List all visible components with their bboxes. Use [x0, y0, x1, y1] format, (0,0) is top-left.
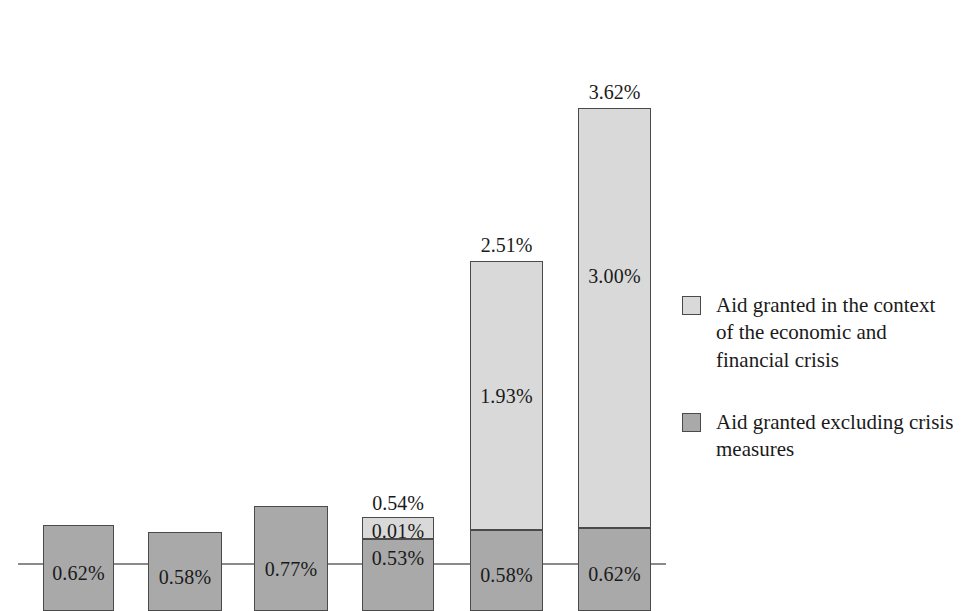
legend-swatch-crisis-context: [682, 296, 701, 315]
legend-label-excluding-crisis: Aid granted excluding crisis measures: [716, 409, 954, 464]
bar-group-2004: 0.62% 2004: [43, 48, 114, 611]
bar-group-2006: 0.77% 2006: [254, 48, 328, 611]
bar-label-excluding-crisis: 0.53%: [362, 547, 434, 570]
legend-label-crisis-context: Aid granted in the context of the econom…: [716, 292, 954, 374]
bar-label-excluding-crisis: 0.62%: [43, 562, 114, 585]
bar-total-label: 0.54%: [362, 492, 434, 515]
legend-swatch-excluding-crisis: [682, 413, 701, 432]
x-axis-line: [18, 563, 666, 565]
bar-label-excluding-crisis: 0.77%: [254, 558, 328, 581]
bar-group-2009: 0.62% 3.00% 3.62% 2009: [578, 48, 651, 611]
plot-area: 0.62% 2004 0.58% 2005 0.77% 2006 0.53% 0…: [0, 0, 700, 611]
bar-group-2007: 0.53% 0.01% 0.54% 2007: [362, 48, 434, 611]
legend-entry-excluding-crisis[interactable]: Aid granted excluding crisis measures: [682, 409, 954, 464]
bar-label-excluding-crisis: 0.58%: [470, 564, 543, 587]
bar-total-label: 2.51%: [470, 234, 543, 257]
bar-label-excluding-crisis: 0.58%: [148, 566, 222, 589]
legend-entry-crisis-context[interactable]: Aid granted in the context of the econom…: [682, 292, 954, 374]
stacked-bar-chart: 0.62% 2004 0.58% 2005 0.77% 2006 0.53% 0…: [0, 0, 963, 611]
bar-label-excluding-crisis: 0.62%: [578, 563, 651, 586]
bar-label-crisis-context: 0.01%: [362, 520, 434, 543]
bar-group-2005: 0.58% 2005: [148, 48, 222, 611]
bar-label-crisis-context: 3.00%: [578, 265, 651, 288]
bar-group-2008: 0.58% 1.93% 2.51% 2008: [470, 48, 543, 611]
bar-total-label: 3.62%: [578, 81, 651, 104]
bar-label-crisis-context: 1.93%: [470, 385, 543, 408]
bar-segment-crisis-context[interactable]: [578, 108, 651, 528]
